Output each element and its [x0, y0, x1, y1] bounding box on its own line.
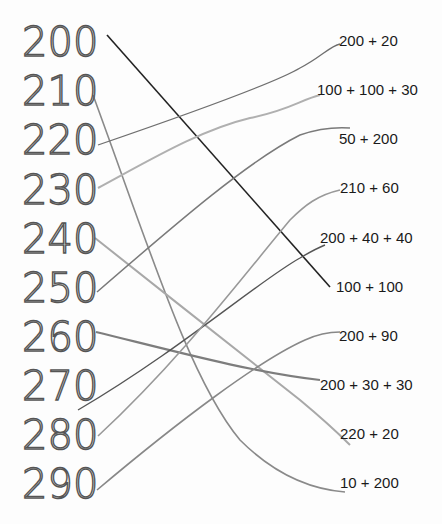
expression-8: 200 + 30 + 30: [320, 376, 413, 393]
match-line-220: [98, 44, 340, 145]
expression-9: 220 + 20: [340, 425, 399, 442]
matching-worksheet: 200 210 220 230 240 250 260 270 280 290 …: [0, 0, 442, 524]
number-270: 270: [22, 366, 98, 406]
number-220: 220: [22, 120, 98, 160]
expression-4: 210 + 60: [340, 179, 399, 196]
expression-6: 100 + 100: [336, 278, 403, 295]
expression-5: 200 + 40 + 40: [320, 229, 413, 246]
number-280: 280: [22, 415, 98, 455]
match-line-280: [98, 190, 340, 436]
number-230: 230: [22, 170, 98, 210]
match-line-260: [96, 332, 320, 380]
match-line-210: [93, 95, 345, 492]
match-line-290: [97, 332, 340, 490]
number-210: 210: [22, 71, 98, 111]
number-240: 240: [22, 219, 98, 259]
number-250: 250: [22, 268, 98, 308]
expression-3: 50 + 200: [339, 130, 398, 147]
match-line-200: [107, 35, 330, 287]
expression-1: 200 + 20: [339, 32, 398, 49]
number-290: 290: [22, 464, 98, 504]
number-200: 200: [22, 22, 98, 62]
expression-7: 200 + 90: [339, 327, 398, 344]
expression-2: 100 + 100 + 30: [317, 81, 418, 98]
expression-10: 10 + 200: [340, 474, 399, 491]
number-260: 260: [22, 317, 98, 357]
